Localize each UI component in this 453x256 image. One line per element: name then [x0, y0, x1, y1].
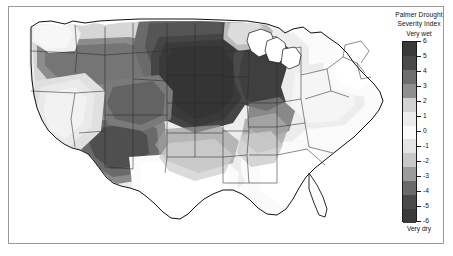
colorbar-tick-label: -1	[423, 143, 429, 150]
colorbar-tick	[417, 191, 421, 192]
colorbar-band	[403, 153, 416, 167]
colorbar-tick-label: -3	[423, 173, 429, 180]
us-drought-map	[9, 7, 387, 243]
colorbar-tick	[417, 86, 421, 87]
colorbar-tick-label: 4	[423, 68, 427, 75]
colorbar-tick-label: -5	[423, 203, 429, 210]
colorbar-band	[403, 139, 416, 153]
colorbar-tick	[417, 176, 421, 177]
colorbar-tick	[417, 101, 421, 102]
colorbar-tick	[417, 206, 421, 207]
coastline-detail	[309, 173, 327, 217]
colorbar-band	[403, 42, 416, 56]
colorbar-tick-label: -4	[423, 188, 429, 195]
colorbar-tick	[417, 146, 421, 147]
colorbar-tick-label: 3	[423, 83, 427, 90]
colorbar-band	[403, 167, 416, 181]
colorbar-tick	[417, 221, 421, 222]
drought-contour-fill	[9, 7, 387, 243]
colorbar-tick	[417, 71, 421, 72]
colorbar-band	[403, 56, 416, 70]
drought-index-figure: Palmer Drought Severity Index Very wet 6…	[0, 0, 453, 256]
colorbar-tick-label: 1	[423, 113, 427, 120]
colorbar-wrapper: 6543210-1-2-3-4-5-6	[402, 41, 417, 222]
colorbar-band	[403, 181, 416, 195]
map-svg	[9, 7, 387, 243]
legend-very-wet-label: Very wet	[388, 30, 450, 37]
colorbar-band	[403, 70, 416, 84]
colorbar-tick-label: 5	[423, 53, 427, 60]
colorbar-band	[403, 98, 416, 112]
legend-title-line-1: Palmer Drought	[388, 11, 450, 19]
legend-very-dry-label: Very dry	[388, 225, 450, 232]
colorbar-tick	[417, 161, 421, 162]
colorbar-tick	[417, 116, 421, 117]
colorbar-tick-label: 2	[423, 98, 427, 105]
colorbar-tick-label: -6	[423, 218, 429, 225]
colorbar-band	[403, 126, 416, 140]
colorbar-band	[403, 209, 416, 223]
colorbar-band	[403, 195, 416, 209]
colorbar-band	[403, 84, 416, 98]
colorbar-tick-label: -2	[423, 158, 429, 165]
colorbar-tick	[417, 56, 421, 57]
legend-title-line-2: Severity Index	[388, 20, 450, 28]
colorbar-tick	[417, 131, 421, 132]
colorbar	[402, 41, 417, 222]
colorbar-tick-label: 0	[423, 128, 427, 135]
colorbar-tick	[417, 41, 421, 42]
colorbar-tick-label: 6	[423, 38, 427, 45]
colorbar-legend: Palmer Drought Severity Index Very wet 6…	[388, 8, 450, 240]
colorbar-band	[403, 112, 416, 126]
